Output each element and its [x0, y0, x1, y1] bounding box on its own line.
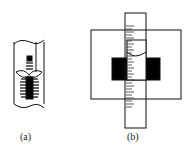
panel-a-drawing [14, 40, 44, 108]
panel-b-label: (b) [127, 131, 139, 142]
panel-b-drawing [91, 13, 181, 128]
panel-a-label: (a) [20, 131, 31, 142]
